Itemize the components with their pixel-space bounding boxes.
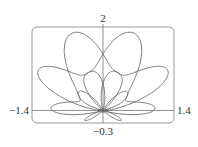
polar-plot: 2 −0.3 −1.4 1.4	[0, 0, 198, 147]
x-max-label: 1.4	[177, 104, 191, 116]
x-min-label: −1.4	[9, 104, 29, 116]
y-min-label: −0.3	[93, 125, 113, 137]
y-max-label: 2	[100, 12, 106, 24]
